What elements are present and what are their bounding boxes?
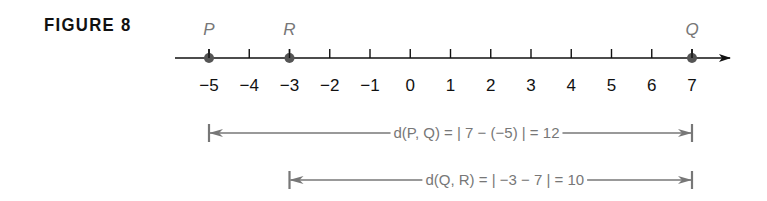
tick-label: 0 [406, 76, 415, 95]
tick-label: 3 [526, 76, 535, 95]
tick-label: −2 [320, 76, 339, 95]
tick-label: −5 [199, 76, 218, 95]
tick-label: 1 [446, 76, 455, 95]
number-line-diagram: −5−4−3−2−101234567 PRQ d(P, Q) = | 7 − (… [0, 0, 767, 201]
distance-annotations: d(P, Q) = | 7 − (−5) | = 12d(Q, R) = | −… [209, 124, 692, 189]
point-label-r: R [283, 20, 295, 39]
distance-annotation: d(P, Q) = | 7 − (−5) | = 12 [209, 124, 692, 142]
point-label-p: P [203, 20, 215, 39]
distance-formula: d(P, Q) = | 7 − (−5) | = 12 [394, 124, 560, 141]
tick-label: −4 [240, 76, 259, 95]
distance-annotation: d(Q, R) = | −3 − 7 | = 10 [290, 171, 693, 189]
tick-marks [209, 49, 692, 58]
point-label-q: Q [685, 20, 698, 39]
tick-label: 5 [607, 76, 616, 95]
tick-label: −3 [280, 76, 299, 95]
distance-formula: d(Q, R) = | −3 − 7 | = 10 [425, 171, 584, 188]
tick-label: 4 [567, 76, 576, 95]
tick-labels: −5−4−3−2−101234567 [199, 76, 696, 95]
tick-label: −1 [360, 76, 379, 95]
tick-label: 7 [687, 76, 696, 95]
tick-label: 6 [647, 76, 656, 95]
tick-label: 2 [486, 76, 495, 95]
